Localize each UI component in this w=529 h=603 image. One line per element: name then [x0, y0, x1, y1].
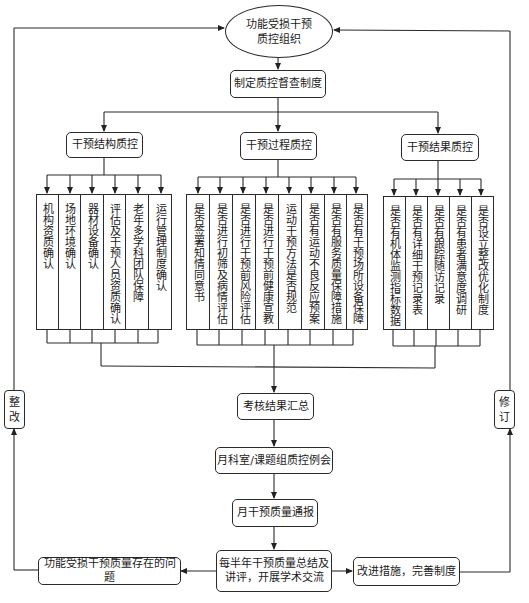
- structure-item: 场地环境确认: [58, 194, 81, 330]
- process-item: 是否签署知情同意书: [186, 194, 210, 330]
- semiannual-line1: 每半年干预质量总结及: [219, 557, 329, 571]
- process-item-label: 是否进行干预前健康宣教: [261, 203, 274, 324]
- structure-item-label: 老年多学科团队保障: [131, 203, 144, 302]
- revise-node: 修 订: [494, 390, 515, 429]
- revise-char-1: 修: [499, 395, 510, 410]
- structure-qc-node: 干预结构质控: [66, 132, 143, 158]
- improvements-node: 改进措施，完善制度: [353, 557, 460, 586]
- process-item-label: 是否签署知情同意书: [192, 203, 205, 302]
- result-item: 是否设立整改优化制度: [471, 196, 494, 330]
- structure-item-label: 场地环境确认: [63, 203, 76, 269]
- result-item-label: 是否有详细干预记录表: [410, 205, 423, 315]
- result-item: 是否有患者满意度调研: [449, 196, 472, 330]
- structure-item: 运行管理制度确认: [148, 194, 172, 330]
- structure-item: 评估及干预人员资质确认: [103, 194, 126, 330]
- revise-char-2: 订: [499, 410, 510, 425]
- result-item-label: 是否有患者满意度调研: [454, 205, 467, 315]
- result-item-label: 是否设立整改优化制度: [476, 205, 489, 315]
- process-item-label: 是否有干预场所设备保障: [351, 203, 364, 324]
- semiannual-review-node: 每半年干预质量总结及 讲评，开展学术交流: [216, 550, 332, 592]
- monthly-report-node: 月干预质量通报: [232, 499, 318, 527]
- qc-organization-line1: 功能受损干预: [246, 17, 312, 32]
- structure-item: 老年多学科团队保障: [125, 194, 149, 330]
- result-qc-node: 干预结果质控: [401, 134, 479, 161]
- structure-item-label: 评估及干预人员资质确认: [108, 203, 121, 324]
- monthly-meeting-node: 月科室/课题组质控例会: [215, 447, 333, 474]
- result-item-label: 是否有机体监测指标数据: [388, 205, 401, 326]
- structure-item-label: 器材设备确认: [86, 203, 99, 269]
- structure-item: 器材设备确认: [80, 194, 104, 330]
- structure-item-label: 运行管理制度确认: [154, 203, 167, 291]
- rectify-char-1: 整: [9, 395, 20, 410]
- structure-item-label: 机构资质确认: [41, 203, 54, 269]
- policy-node: 制定质控督查制度: [230, 70, 326, 98]
- qc-organization-node: 功能受损干预 质控组织: [225, 5, 333, 58]
- result-item-label: 是否有跟踪随访记录: [432, 205, 445, 304]
- result-item: 是否有机体监测指标数据: [383, 196, 406, 330]
- process-item-label: 是否有服务质量保障措施: [329, 203, 342, 324]
- result-item: 是否有详细干预记录表: [405, 196, 428, 330]
- process-item-label: 运动干预方法是否规范: [284, 203, 297, 313]
- rectify-char-2: 改: [9, 410, 20, 425]
- process-item: 是否有干预场所设备保障: [346, 194, 368, 330]
- process-item: 是否有服务质量保障措施: [324, 194, 347, 330]
- structure-item: 机构资质确认: [36, 194, 59, 330]
- process-item: 运动干预方法是否规范: [278, 194, 302, 330]
- process-item: 是否进行干预前健康宣教: [255, 194, 279, 330]
- process-item-label: 是否进行初筛及病情评估: [215, 203, 228, 324]
- summary-node: 考核结果汇总: [237, 393, 314, 420]
- process-item-label: 是否有运动不良反应预案: [307, 203, 320, 324]
- process-item: 是否进行干预前风险评估: [232, 194, 256, 330]
- qc-organization-line2: 质控组织: [257, 32, 301, 47]
- process-item: 是否进行初筛及病情评估: [209, 194, 233, 330]
- quality-control-flowchart: 功能受损干预 质控组织 制定质控督查制度 干预结构质控 干预过程质控 干预结果质…: [0, 0, 529, 603]
- process-qc-node: 干预过程质控: [240, 132, 317, 160]
- process-item: 是否有运动不良反应预案: [301, 194, 325, 330]
- process-item-label: 是否进行干预前风险评估: [238, 203, 251, 324]
- rectify-node: 整 改: [4, 390, 25, 429]
- result-item: 是否有跟踪随访记录: [427, 196, 450, 330]
- semiannual-line2: 讲评，开展学术交流: [225, 571, 324, 585]
- problems-node: 功能受损干预质量存在的问题: [38, 557, 181, 585]
